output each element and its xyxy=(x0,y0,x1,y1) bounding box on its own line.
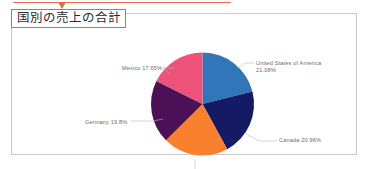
leader-line-canada xyxy=(244,133,277,141)
screenshot-root: United States of America 21.08% Canada 2… xyxy=(0,0,371,169)
pie-chart-svg xyxy=(23,27,369,169)
pie-label-mexico: Mexico 17.65% xyxy=(122,65,162,72)
callout-line-icon xyxy=(13,2,231,3)
visual-title-box[interactable]: 国別の売上の合計 xyxy=(11,9,126,28)
report-visual-card[interactable]: United States of America 21.08% Canada 2… xyxy=(11,13,357,155)
leader-line-usa xyxy=(237,63,254,68)
callout-arrow-icon xyxy=(58,2,66,9)
visual-title-text: 国別の売上の合計 xyxy=(17,12,121,25)
pie-chart-area[interactable]: United States of America 21.08% Canada 2… xyxy=(23,27,369,169)
pie-label-germany: Germany 19.8% xyxy=(85,119,127,126)
leader-line-france xyxy=(186,159,195,169)
pie-label-united-states-of-america: United States of America 21.08% xyxy=(256,60,321,74)
pie-label-canada: Canada 20.96% xyxy=(279,137,321,144)
